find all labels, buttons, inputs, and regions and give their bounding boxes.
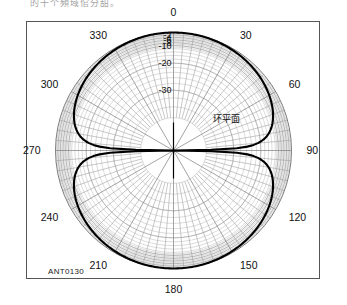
polar-chart-svg: -2-4-6-8-10-20-30 0306090120150180210240… — [0, 0, 347, 305]
angle-tick-label: 150 — [240, 259, 258, 271]
radial-tick-label: -10 — [158, 41, 171, 51]
radial-tick-label: -20 — [158, 58, 171, 68]
angle-tick-label: 0 — [171, 6, 177, 18]
angle-tick-label: 180 — [165, 283, 183, 295]
radial-tick-labels: -2-4-6-8-10-20-30 — [158, 30, 171, 95]
angle-tick-label: 270 — [23, 144, 41, 156]
radial-tick-label: -30 — [158, 85, 171, 95]
polar-chart: -2-4-6-8-10-20-30 0306090120150180210240… — [0, 0, 347, 305]
plane-annotation: 环平面 — [213, 114, 240, 124]
angle-tick-label: 240 — [41, 211, 59, 223]
plot-id-label: ANT0130 — [48, 267, 84, 276]
angle-tick-label: 60 — [289, 78, 301, 90]
angle-tick-label: 30 — [240, 29, 252, 41]
angle-tick-label: 90 — [307, 144, 319, 156]
angle-tick-label: 210 — [89, 259, 107, 271]
angle-tick-label: 300 — [41, 78, 59, 90]
angle-tick-label: 330 — [89, 29, 107, 41]
angle-tick-label: 120 — [289, 211, 307, 223]
